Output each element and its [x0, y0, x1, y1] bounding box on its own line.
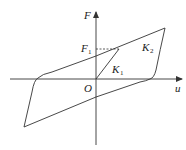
k1-label: K 1 — [111, 63, 124, 77]
svg-text:K: K — [141, 41, 150, 53]
hysteresis-diagram: F u O F 1 K 1 K 2 — [0, 0, 186, 150]
origin-label: O — [84, 82, 92, 94]
svg-text:2: 2 — [150, 47, 154, 55]
k2-label: K 2 — [141, 41, 154, 55]
x-axis-label: u — [175, 82, 181, 94]
y-axis-label: F — [83, 9, 91, 21]
svg-text:F: F — [80, 42, 88, 54]
svg-text:1: 1 — [88, 48, 92, 56]
f1-label: F 1 — [80, 42, 92, 56]
svg-text:K: K — [111, 63, 120, 75]
svg-text:1: 1 — [120, 69, 124, 77]
